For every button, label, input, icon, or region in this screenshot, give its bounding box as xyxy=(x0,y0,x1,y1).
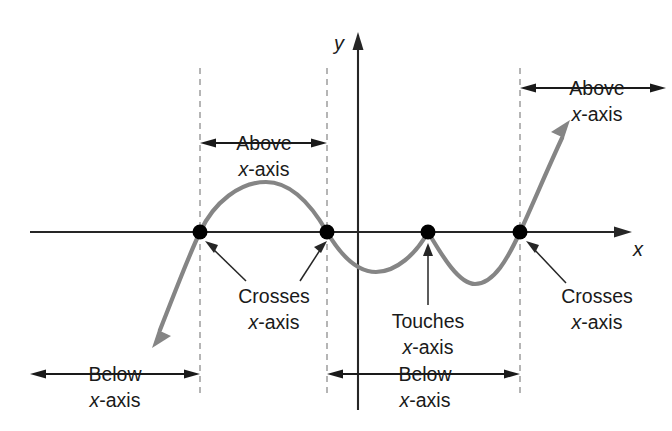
root-dot-1 xyxy=(193,225,208,240)
above-right-left-arrowhead xyxy=(520,84,536,93)
polynomial-graph-svg: y x Above x-axis Above x-axis Crosses xyxy=(0,0,672,431)
annotation-crosses-left: Crosses x-axis xyxy=(205,241,327,333)
crosses-left-leader-root2-arrowhead xyxy=(314,241,327,253)
x-axis-label: x xyxy=(632,238,644,260)
root-dot-3 xyxy=(421,225,436,240)
touches-middle-label-line2: x-axis xyxy=(402,336,454,358)
above-right-label-line1: Above xyxy=(569,77,624,99)
polynomial-curve-group xyxy=(152,120,570,348)
polynomial-curve xyxy=(160,138,562,330)
above-middle-label-line2: x-axis xyxy=(238,158,290,180)
below-middle-label-line2: x-axis xyxy=(399,389,451,411)
y-axis-label: y xyxy=(332,32,345,54)
above-middle-right-arrowhead xyxy=(311,139,327,148)
above-middle-label-line1: Above xyxy=(236,132,291,154)
above-right-label-line2: x-axis xyxy=(571,103,623,125)
curve-right-end-arrowhead xyxy=(551,120,570,138)
curve-left-end-arrowhead xyxy=(152,330,171,348)
root-dot-4 xyxy=(513,225,528,240)
crosses-right-leader xyxy=(532,247,566,283)
below-left-label-line2: x-axis xyxy=(89,389,141,411)
above-right-right-arrowhead xyxy=(650,84,666,93)
crosses-right-label-line1: Crosses xyxy=(561,285,633,307)
crosses-right-leader-arrowhead xyxy=(526,241,539,253)
crosses-left-leader-root2 xyxy=(300,247,322,281)
above-middle-left-arrowhead xyxy=(200,139,216,148)
annotation-crosses-right: Crosses x-axis xyxy=(526,241,633,333)
x-axis-arrowhead xyxy=(614,227,632,238)
root-dot-2 xyxy=(320,225,335,240)
touches-middle-label-line1: Touches xyxy=(392,310,465,332)
annotation-below-left: Below x-axis xyxy=(30,363,200,411)
touches-middle-leader-arrowhead xyxy=(423,243,433,256)
y-axis-arrowhead xyxy=(353,32,364,50)
crosses-left-leader-root1 xyxy=(211,247,246,281)
below-left-left-arrowhead xyxy=(30,370,46,379)
annotation-above-middle: Above x-axis xyxy=(200,132,327,180)
crosses-left-label-line2: x-axis xyxy=(248,311,300,333)
polynomial-behavior-figure: y x Above x-axis Above x-axis Crosses xyxy=(0,0,672,431)
annotation-above-right: Above x-axis xyxy=(520,77,666,125)
crosses-left-label-line1: Crosses xyxy=(238,285,310,307)
below-left-label-line1: Below xyxy=(88,363,142,385)
annotation-below-middle: Below x-axis xyxy=(327,363,520,411)
below-middle-right-arrowhead xyxy=(504,370,520,379)
below-left-right-arrowhead xyxy=(184,370,200,379)
below-middle-label-line1: Below xyxy=(398,363,452,385)
below-middle-left-arrowhead xyxy=(327,370,343,379)
crosses-right-label-line2: x-axis xyxy=(571,311,623,333)
